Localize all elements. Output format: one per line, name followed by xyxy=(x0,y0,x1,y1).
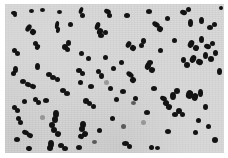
bacterium-cell xyxy=(47,145,53,151)
bacterium-cell xyxy=(210,41,215,46)
bacterium-cell xyxy=(146,9,152,14)
bacterium-cell xyxy=(103,30,108,35)
bacterium-cell xyxy=(110,116,115,121)
bacterium-cell xyxy=(40,115,45,120)
bacterium-cell xyxy=(147,60,153,65)
bacterium-cell xyxy=(156,25,164,33)
bacterium-cell xyxy=(172,38,177,43)
bacterium-cell xyxy=(104,80,109,85)
bacterium-cell xyxy=(119,60,124,65)
bacterium-cell xyxy=(97,128,102,133)
bacterium-cell xyxy=(212,22,217,27)
bacterium-cell xyxy=(34,43,41,50)
bacterium-cell xyxy=(184,62,190,68)
bacterium-cell xyxy=(206,124,211,129)
bacterium-cell xyxy=(65,47,70,52)
bacterium-cell xyxy=(198,89,203,97)
bacterium-cell xyxy=(180,112,185,117)
bacterium-cell xyxy=(186,7,191,12)
bacterium-cell xyxy=(151,86,157,91)
bacterium-cell xyxy=(43,98,49,103)
bacterium-cell xyxy=(29,9,34,13)
bacterium-cell xyxy=(195,58,204,66)
bacterium-cell xyxy=(129,76,137,84)
bacterium-cell xyxy=(121,124,126,129)
bacterium-cell xyxy=(78,80,83,85)
bacterium-cell xyxy=(174,88,180,94)
bacterium-cell xyxy=(192,44,200,52)
bacterium-cell xyxy=(188,19,193,27)
bacterium-cell xyxy=(13,13,17,17)
bacterium-cell xyxy=(120,89,126,94)
bacterium-cell xyxy=(127,144,132,149)
bacterium-cell xyxy=(76,145,82,150)
bacterium-cell xyxy=(99,73,104,79)
bacterium-cell xyxy=(68,22,73,27)
bacterium-cell xyxy=(80,13,85,18)
bacterium-cell xyxy=(62,146,68,151)
bacterium-cell xyxy=(56,27,61,34)
bacterium-cell xyxy=(212,137,218,143)
bacterium-cell xyxy=(35,63,40,70)
bacterium-cell xyxy=(114,97,119,102)
bacterium-cell xyxy=(11,71,16,76)
bacterium-cell xyxy=(92,140,97,144)
bacterium-cell xyxy=(165,16,170,21)
bacterium-cell xyxy=(199,17,204,24)
bacterium-cell xyxy=(149,145,154,150)
bacterium-cell xyxy=(22,99,27,104)
bacterium-cell xyxy=(141,120,146,125)
bacterium-cell xyxy=(14,137,20,142)
bacterium-cell xyxy=(155,146,160,150)
bacterium-cell xyxy=(66,40,71,46)
bacterium-cell xyxy=(64,91,70,96)
bacterium-cell xyxy=(18,120,23,125)
bacterium-cell xyxy=(124,13,130,18)
bacterium-cell xyxy=(108,86,113,91)
bacterium-cell xyxy=(193,130,198,135)
bacterium-cell xyxy=(165,103,173,111)
bacterium-cell xyxy=(79,51,84,56)
bacterium-cell xyxy=(165,129,171,134)
bacterium-cell xyxy=(217,68,222,75)
bacterium-cell xyxy=(29,83,36,90)
bacterium-cell xyxy=(86,56,91,61)
bacterium-cell xyxy=(27,26,31,30)
micrograph-page xyxy=(0,0,228,158)
bacterium-cell xyxy=(219,6,223,10)
bacterium-cell xyxy=(103,55,108,60)
bacterium-cell xyxy=(15,51,20,56)
bacterium-cell xyxy=(131,101,136,105)
bacterium-cell xyxy=(144,110,150,115)
bacterium-cell xyxy=(129,44,137,52)
bacterium-cell xyxy=(111,66,116,71)
bacterium-cell xyxy=(55,77,60,82)
bacterium-cell xyxy=(196,118,201,123)
bacterium-cell xyxy=(107,13,112,18)
bacterium-cell xyxy=(57,10,62,14)
bacterium-cell xyxy=(208,56,214,62)
bacterium-cell xyxy=(15,108,20,113)
bacterium-cell xyxy=(40,8,45,12)
bacterium-cell xyxy=(199,36,204,43)
bacterium-cell xyxy=(213,50,218,56)
bacterium-cell xyxy=(80,71,85,76)
bacterium-cell xyxy=(172,112,178,117)
bacterium-cell xyxy=(36,100,41,105)
bacterium-cell xyxy=(88,84,94,89)
bacterium-cell xyxy=(54,130,62,138)
bacteria-layer xyxy=(5,4,224,153)
bacterium-cell xyxy=(25,145,32,151)
bacterium-cell xyxy=(158,48,163,53)
bacterium-cell xyxy=(26,132,33,139)
bacterium-cell xyxy=(203,104,208,110)
bacterium-cell xyxy=(139,43,144,48)
microscope-field xyxy=(5,4,224,153)
bacterium-cell xyxy=(148,66,156,74)
bacterium-cell xyxy=(91,104,96,109)
